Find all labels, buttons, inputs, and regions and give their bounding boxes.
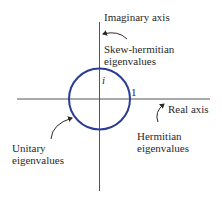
real-axis-label: Real axis [168, 103, 209, 115]
skew-hermitian-label-line1: Skew-hermitian [104, 43, 174, 55]
hermitian-label-line1: Hermitian [137, 130, 182, 142]
hermitian-label-line2: eigenvalues [137, 142, 189, 154]
unitary-arrow [51, 118, 72, 139]
real-axis-arrow [157, 104, 164, 122]
one-label: 1 [131, 86, 137, 98]
skew-hermitian-label-line2: eigenvalues [104, 55, 156, 67]
unitary-label-line2: eigenvalues [12, 154, 64, 166]
eigenvalue-diagram [0, 0, 222, 198]
skew-hermitian-arrow [103, 33, 127, 39]
imaginary-axis-label: Imaginary axis [104, 11, 170, 23]
unitary-label-line1: Unitary [12, 142, 46, 154]
imaginary-unit-label: i [102, 74, 105, 86]
